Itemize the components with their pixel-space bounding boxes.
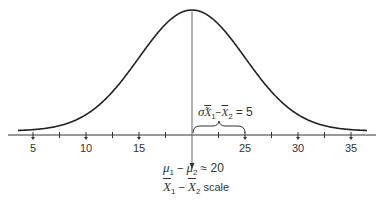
tick-arrow <box>31 137 35 140</box>
tick-label: 35 <box>345 142 357 154</box>
scale-minus: − <box>178 181 184 193</box>
mean-label: μ1 − μ2 ≈ 20 <box>163 160 224 177</box>
xbar2-sub: 2 <box>196 187 200 196</box>
sigma-brace <box>193 121 245 133</box>
normal-curve <box>18 10 367 130</box>
tick-label: 15 <box>133 142 145 154</box>
tick-arrow <box>137 137 141 140</box>
mu2-sub: 2 <box>193 168 197 177</box>
xbar1-symbol: X <box>163 179 171 194</box>
mean-minus: − <box>177 162 183 174</box>
tick-arrow <box>296 137 300 140</box>
sigma-value: = 5 <box>236 105 253 119</box>
scale-label: X1 − X2 scale <box>163 179 229 196</box>
mean-value: ≈ 20 <box>201 161 224 175</box>
tick-arrow <box>84 137 88 140</box>
xbar1-sub: 1 <box>171 187 175 196</box>
tick-label: 10 <box>80 142 92 154</box>
mu1-sub: 1 <box>170 168 174 177</box>
tick-label: 25 <box>239 142 251 154</box>
sigma-label: σ̃X1−X2 = 5 <box>198 104 253 121</box>
tick-arrow <box>349 137 353 140</box>
tick-label: 5 <box>30 142 36 154</box>
tick-label: 30 <box>292 142 304 154</box>
xbar2-symbol: X <box>188 179 196 194</box>
sigma-sub2: 2 <box>228 112 232 121</box>
tick-arrow <box>243 137 247 140</box>
scale-word: scale <box>203 181 229 193</box>
